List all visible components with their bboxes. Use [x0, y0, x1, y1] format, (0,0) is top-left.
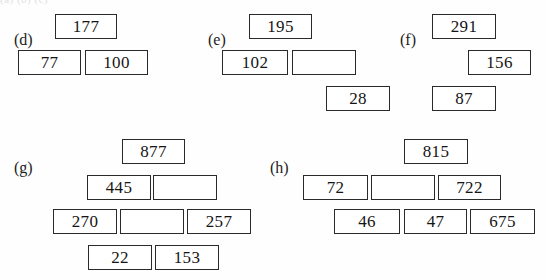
pyramid-cell-d-r0c0: 177 — [55, 14, 117, 39]
pyramid-cell-e-r1c0: 102 — [222, 50, 288, 75]
pyramid-cell-blank-e-r1c1[interactable] — [292, 50, 356, 75]
pyramid-cell-d-r1c0: 77 — [18, 50, 81, 75]
pyramid-cell-h-r1c0: 72 — [303, 175, 368, 200]
pyramid-cell-blank-g-r2c1[interactable] — [120, 209, 184, 234]
pyramid-cell-g-r2c0: 270 — [53, 209, 117, 234]
pyramid-cell-e-r0c0: 195 — [249, 14, 312, 39]
exercise-label-d: (d) — [14, 32, 33, 48]
cut-off-previous-row: (a) (b) (c) — [0, 0, 546, 5]
pyramid-cell-e-r2c0: 28 — [326, 86, 390, 111]
pyramid-cell-h-r1c2: 722 — [438, 175, 501, 200]
pyramid-cell-blank-g-r1c1[interactable] — [153, 175, 217, 200]
cut-off-previous-row-text: (a) (b) (c) — [0, 0, 48, 5]
pyramid-cell-f-r1c0: 156 — [468, 50, 531, 75]
exercise-label-e: (e) — [208, 32, 226, 48]
pyramid-cell-g-r3c1: 153 — [155, 245, 219, 270]
pyramid-cell-g-r2c2: 257 — [187, 209, 251, 234]
exercise-label-g: (g) — [14, 160, 33, 176]
pyramid-cell-blank-h-r1c1[interactable] — [371, 175, 435, 200]
pyramid-cell-g-r3c0: 22 — [88, 245, 152, 270]
pyramid-cell-f-r0c0: 291 — [432, 14, 496, 39]
pyramid-cell-h-r2c2: 675 — [470, 209, 535, 234]
exercise-label-h: (h) — [270, 160, 289, 176]
pyramid-cell-d-r1c1: 100 — [85, 50, 148, 75]
exercise-label-f: (f) — [400, 32, 416, 48]
pyramid-cell-h-r2c1: 47 — [404, 209, 467, 234]
pyramid-cell-f-r2c0: 87 — [432, 86, 496, 111]
worksheet-page: (a) (b) (c) (d)17777100(e)19510228(f)291… — [0, 0, 546, 280]
pyramid-cell-g-r1c0: 445 — [87, 175, 151, 200]
pyramid-cell-g-r0c0: 877 — [122, 139, 185, 164]
pyramid-cell-h-r2c0: 46 — [334, 209, 400, 234]
pyramid-cell-h-r0c0: 815 — [404, 139, 468, 164]
